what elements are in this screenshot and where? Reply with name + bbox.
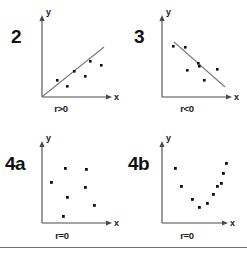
data-point — [56, 79, 59, 82]
data-point — [220, 182, 223, 185]
x-axis-arrow-icon — [222, 220, 228, 225]
scatter-plot-4b: y x r=0 — [124, 127, 247, 254]
data-point — [186, 69, 189, 72]
panel-number-label: 2 — [11, 27, 21, 46]
y-axis-label: y — [166, 133, 171, 143]
y-axis-arrow-icon — [159, 141, 164, 147]
data-point — [222, 172, 225, 175]
data-point — [216, 185, 219, 188]
y-axis-arrow-icon — [39, 141, 44, 147]
data-point — [184, 46, 187, 49]
scatter-plot-3: y x r<0 — [124, 0, 247, 127]
panel-number-label: 3 — [134, 27, 144, 46]
y-axis-label: y — [46, 7, 51, 17]
correlation-figure: 2 y x r>0 3 y — [0, 0, 247, 254]
bottom-divider — [0, 247, 247, 248]
x-axis-label: x — [114, 218, 119, 228]
panel-number-label: 4b — [128, 154, 149, 173]
y-axis-label: y — [46, 133, 51, 143]
y-axis-arrow-icon — [159, 15, 164, 21]
data-point — [225, 162, 228, 165]
data-point — [85, 168, 88, 171]
x-axis-arrow-icon — [106, 220, 112, 225]
data-point — [197, 62, 200, 65]
data-point — [180, 185, 183, 188]
x-axis-arrow-icon — [226, 94, 232, 99]
y-axis-label: y — [166, 7, 171, 17]
data-point — [50, 181, 53, 184]
data-point — [62, 215, 65, 218]
scatter-plot-2: y x r>0 — [0, 0, 123, 127]
panel-2: 2 y x r>0 — [0, 0, 123, 127]
panel-4b: 4b y x r=0 — [124, 127, 247, 254]
data-point — [198, 65, 201, 68]
correlation-annotation: r<0 — [180, 103, 194, 114]
scatter-plot-4a: y x r=0 — [0, 127, 123, 254]
data-point — [64, 167, 67, 170]
correlation-annotation: r=0 — [55, 230, 69, 241]
panel-number-label: 4a — [5, 154, 25, 173]
data-point — [100, 64, 103, 67]
data-point — [203, 79, 206, 82]
x-axis-label: x — [230, 218, 235, 228]
x-axis-arrow-icon — [106, 94, 112, 99]
data-point — [84, 75, 87, 78]
x-axis-label: x — [114, 92, 119, 102]
data-point — [191, 198, 194, 201]
data-point — [66, 196, 69, 199]
data-point — [206, 202, 209, 205]
panel-4a: 4a y x r=0 — [0, 127, 123, 254]
data-point — [84, 186, 87, 189]
data-point — [212, 193, 215, 196]
data-point — [66, 85, 69, 88]
data-point — [73, 70, 76, 73]
data-point — [89, 60, 92, 63]
data-point — [172, 45, 175, 48]
data-point — [216, 68, 219, 71]
data-point — [93, 204, 96, 207]
x-axis-label: x — [234, 92, 239, 102]
panel-3: 3 y x r<0 — [124, 0, 247, 127]
correlation-annotation: r>0 — [54, 103, 68, 114]
correlation-annotation: r=0 — [180, 230, 194, 241]
data-point — [198, 206, 201, 209]
data-point — [174, 167, 177, 170]
y-axis-arrow-icon — [39, 15, 44, 21]
